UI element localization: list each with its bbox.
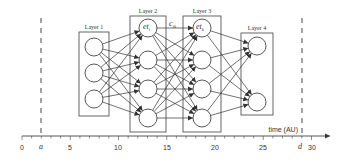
tick-label-20: 20	[211, 144, 219, 151]
tick-label-15: 15	[163, 144, 171, 151]
layer-4-node-1	[248, 37, 266, 55]
nodes	[85, 19, 266, 127]
layer-3-node-4	[193, 109, 211, 127]
layer-3-label: Layer 3	[193, 8, 212, 14]
layer-1-label: Layer 1	[85, 24, 104, 30]
tick-label-10: 10	[114, 144, 122, 151]
layer-1-node-3	[85, 90, 103, 108]
layer-2-node-4	[139, 109, 157, 127]
layer-4-label: Layer 4	[248, 25, 267, 31]
layer-2-label: Layer 2	[139, 8, 158, 14]
connection-edge	[211, 48, 249, 58]
network-diagram: Layer 1 Layer 2 Layer 3 Layer 4 cik eti …	[0, 0, 344, 161]
connection-edge	[207, 53, 251, 111]
axis-title: time (AU)	[268, 126, 298, 134]
tick-label-25: 25	[259, 144, 267, 151]
marker-label-a: a	[39, 142, 43, 151]
layer-1-node-1	[85, 38, 103, 56]
connection-edge	[102, 102, 139, 115]
connection-edge	[102, 31, 139, 44]
connection-edge	[101, 79, 141, 112]
layer-2-node-3	[139, 80, 157, 98]
layer-4-node-2	[248, 93, 266, 111]
time-axis: time (AU) 0 5 10 15 20 25 30 a d	[20, 126, 330, 151]
connection-edge	[207, 35, 251, 95]
tick-label-5: 5	[68, 144, 72, 151]
connections	[99, 28, 251, 118]
connection-label: cik	[169, 19, 177, 29]
layer-1-node-2	[85, 64, 103, 82]
layer-3-node-2	[193, 51, 211, 69]
tick-label-30: 30	[308, 144, 316, 151]
connection-edge	[211, 105, 249, 116]
connection-edge	[101, 34, 141, 67]
connection-edge	[103, 91, 139, 98]
layer-3-node-3	[193, 80, 211, 98]
marker-label-d: d	[298, 142, 303, 151]
tick-label-0: 0	[20, 144, 24, 151]
layer-2-node-2	[139, 51, 157, 69]
